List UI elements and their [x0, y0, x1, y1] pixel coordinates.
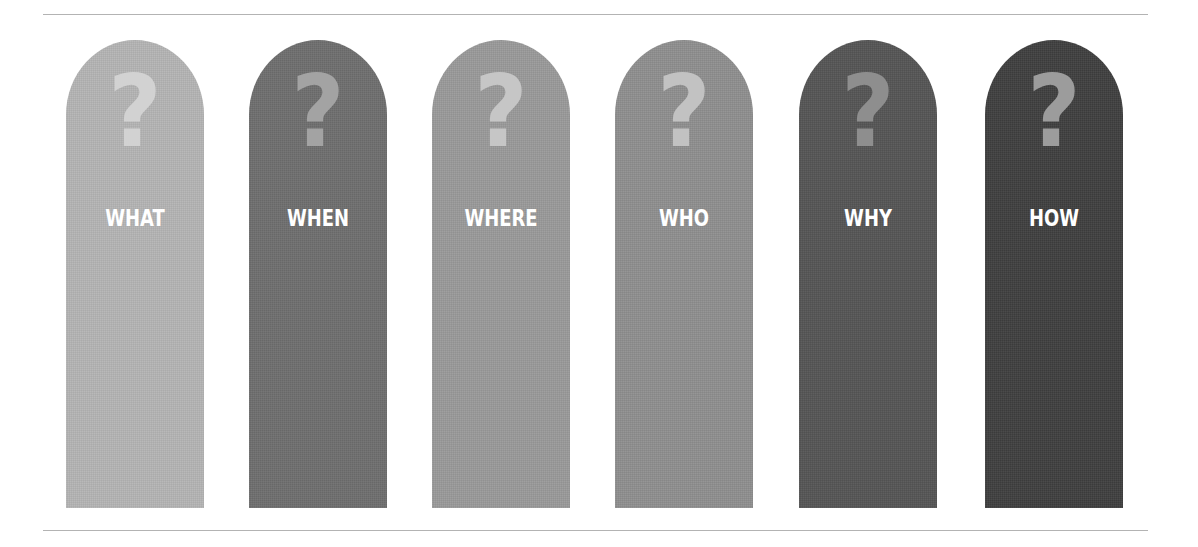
pillar-label: HOW [1000, 205, 1108, 231]
pillar-label: WHEN [264, 205, 372, 231]
pillar-how: ? HOW [985, 40, 1123, 508]
pillar-why: ? WHY [799, 40, 937, 508]
top-divider [43, 14, 1148, 15]
question-mark-icon: ? [438, 62, 565, 162]
pillar-label: WHY [814, 205, 922, 231]
question-mark-icon: ? [991, 62, 1118, 162]
pillar-when: ? WHEN [249, 40, 387, 508]
pillar-label: WHAT [81, 205, 189, 231]
pillar-label: WHERE [447, 205, 555, 231]
pillar-who: ? WHO [615, 40, 753, 508]
bottom-divider [43, 530, 1148, 531]
pillar-what: ? WHAT [66, 40, 204, 508]
question-mark-icon: ? [255, 62, 382, 162]
question-mark-icon: ? [72, 62, 199, 162]
question-mark-icon: ? [621, 62, 748, 162]
pillar-where: ? WHERE [432, 40, 570, 508]
pillar-label: WHO [630, 205, 738, 231]
question-mark-icon: ? [805, 62, 932, 162]
